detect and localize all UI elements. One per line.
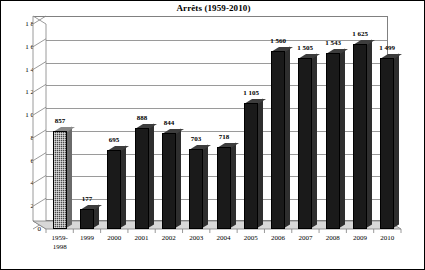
x-tick-label: 2002 — [155, 234, 182, 243]
bar-side-face — [149, 123, 154, 227]
bar-value-label: 1 543 — [325, 39, 341, 47]
bar[interactable]: 1 105 — [244, 103, 258, 229]
bar-side-face — [176, 128, 181, 227]
bar[interactable]: 857 — [53, 131, 67, 229]
bar-value-label: 695 — [109, 136, 120, 144]
bar-value-label: 1 505 — [297, 44, 313, 52]
bar-front-face — [380, 58, 394, 229]
bar-front-face — [271, 51, 285, 229]
bar-side-face — [312, 53, 317, 228]
chart-figure: Arrêts (1959-2010) 02004006008001 0001 2… — [0, 0, 425, 270]
bar-side-face — [285, 47, 290, 228]
plot-area: 8571776958888447037181 1051 5601 5051 54… — [46, 24, 401, 229]
x-tick-label: 2006 — [264, 234, 291, 243]
bar-side-face — [67, 127, 72, 228]
bar[interactable]: 177 — [80, 209, 94, 229]
bar-value-label: 177 — [82, 195, 93, 203]
bar-side-face — [340, 49, 345, 228]
x-tick-label: 2003 — [183, 234, 210, 243]
bar-value-label: 857 — [55, 117, 66, 125]
x-tick-label: 2000 — [101, 234, 128, 243]
x-tick-label: 1959- 1998 — [46, 234, 73, 251]
bar-side-face — [258, 99, 263, 228]
bar-value-label: 1 499 — [379, 44, 395, 52]
bar-series: 8571776958888447037181 1051 5601 5051 54… — [46, 24, 401, 229]
bar-front-face — [217, 147, 231, 229]
bar-value-label: 1 625 — [352, 30, 368, 38]
bar-side-face — [121, 145, 126, 227]
x-tick-label: 1999 — [73, 234, 100, 243]
bar-value-label: 844 — [164, 119, 175, 127]
bar[interactable]: 718 — [217, 147, 231, 229]
bar-value-label: 1 105 — [243, 89, 259, 97]
bar-side-face — [367, 39, 372, 227]
x-axis: 1959- 1998199920002001200220032004200520… — [46, 232, 401, 270]
bar[interactable]: 1 505 — [298, 58, 312, 229]
bar-value-label: 718 — [219, 133, 230, 141]
x-tick-label: 2001 — [128, 234, 155, 243]
bar-front-face — [244, 103, 258, 229]
bar-front-face — [53, 131, 67, 229]
bar[interactable]: 1 499 — [380, 58, 394, 229]
bar[interactable]: 888 — [135, 128, 149, 229]
plot-3d-face — [33, 16, 46, 229]
bar-front-face — [353, 44, 367, 229]
x-tick-label: 2004 — [210, 234, 237, 243]
bar-value-label: 888 — [137, 114, 148, 122]
bar[interactable]: 703 — [189, 149, 203, 229]
bar-front-face — [162, 133, 176, 229]
bar-front-face — [326, 53, 340, 229]
x-tick-label: 2009 — [346, 234, 373, 243]
bar-front-face — [189, 149, 203, 229]
bar[interactable]: 1 560 — [271, 51, 285, 229]
bar-front-face — [80, 209, 94, 229]
bar-side-face — [394, 54, 399, 228]
x-tick-label: 2008 — [319, 234, 346, 243]
chart-title: Arrêts (1959-2010) — [1, 3, 425, 14]
bar[interactable]: 844 — [162, 133, 176, 229]
bar[interactable]: 1 625 — [353, 44, 367, 229]
bar-side-face — [203, 144, 208, 227]
bar[interactable]: 1 543 — [326, 53, 340, 229]
x-tick-label: 2010 — [374, 234, 401, 243]
bar-value-label: 703 — [191, 135, 202, 143]
x-tick-label: 2005 — [237, 234, 264, 243]
bar-side-face — [231, 143, 236, 228]
bar[interactable]: 695 — [107, 150, 121, 229]
x-tick-label: 2007 — [292, 234, 319, 243]
bar-front-face — [298, 58, 312, 229]
bar-front-face — [135, 128, 149, 229]
bar-value-label: 1 560 — [270, 37, 286, 45]
bar-front-face — [107, 150, 121, 229]
